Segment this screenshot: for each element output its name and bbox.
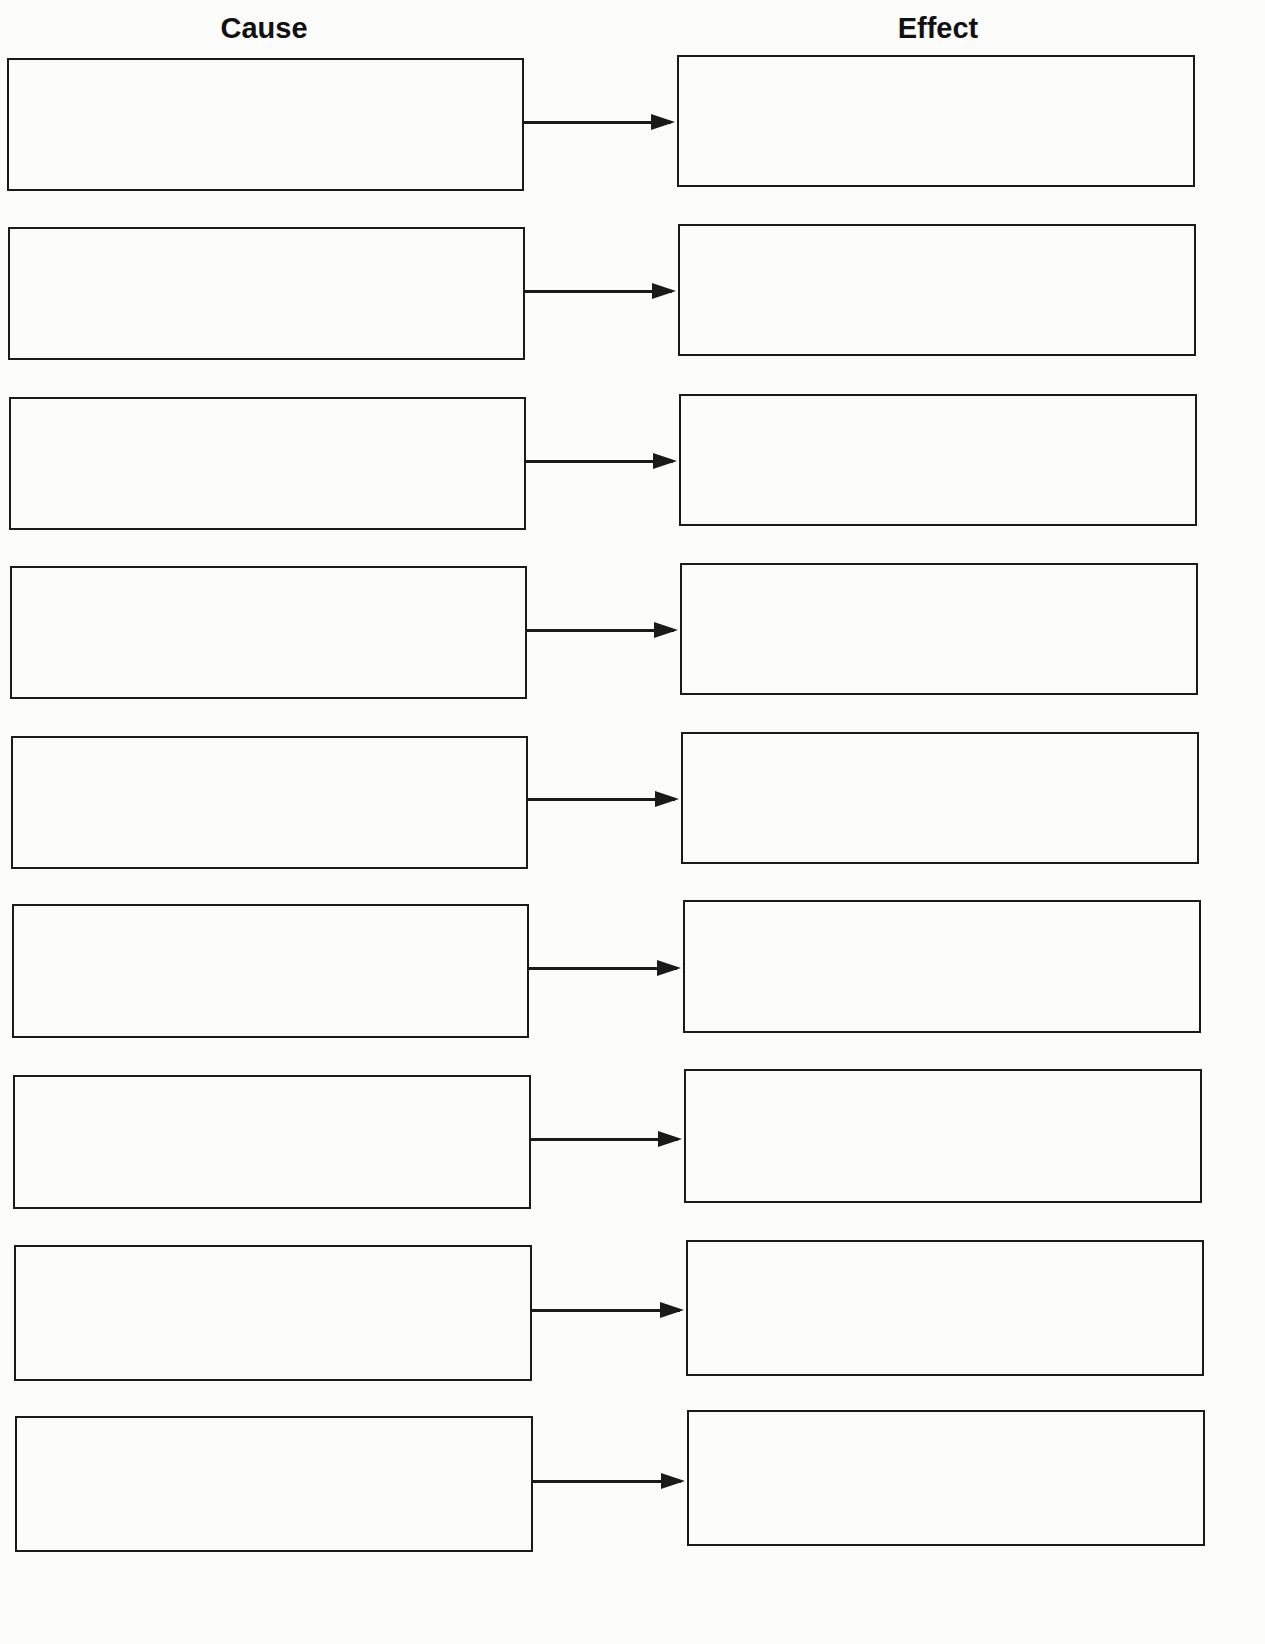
cause-box-9[interactable] xyxy=(15,1416,533,1552)
arrow-right-icon xyxy=(526,460,673,463)
cause-box-3[interactable] xyxy=(9,397,526,530)
cause-column-header: Cause xyxy=(164,12,364,45)
effect-box-6[interactable] xyxy=(683,900,1201,1033)
effect-box-4[interactable] xyxy=(680,563,1198,695)
effect-box-9[interactable] xyxy=(687,1410,1205,1546)
cause-box-8[interactable] xyxy=(14,1245,532,1381)
page-title-clipped xyxy=(370,0,890,6)
arrow-right-icon xyxy=(529,967,677,970)
arrow-right-icon xyxy=(527,629,674,632)
cause-box-6[interactable] xyxy=(12,904,529,1038)
cause-box-4[interactable] xyxy=(10,566,527,699)
cause-box-2[interactable] xyxy=(8,227,525,360)
effect-box-2[interactable] xyxy=(678,224,1196,356)
arrow-right-icon xyxy=(533,1480,681,1483)
cause-box-5[interactable] xyxy=(11,736,528,869)
cause-box-1[interactable] xyxy=(7,58,524,191)
cause-box-7[interactable] xyxy=(13,1075,531,1209)
arrow-right-icon xyxy=(528,798,675,801)
effect-box-8[interactable] xyxy=(686,1240,1204,1376)
effect-box-7[interactable] xyxy=(684,1069,1202,1203)
arrow-right-icon xyxy=(525,290,672,293)
effect-box-1[interactable] xyxy=(677,55,1195,187)
effect-column-header: Effect xyxy=(838,12,1038,45)
arrow-right-icon xyxy=(524,121,671,124)
effect-box-3[interactable] xyxy=(679,394,1197,526)
arrow-right-icon xyxy=(531,1138,678,1141)
arrow-right-icon xyxy=(532,1309,680,1312)
effect-box-5[interactable] xyxy=(681,732,1199,864)
